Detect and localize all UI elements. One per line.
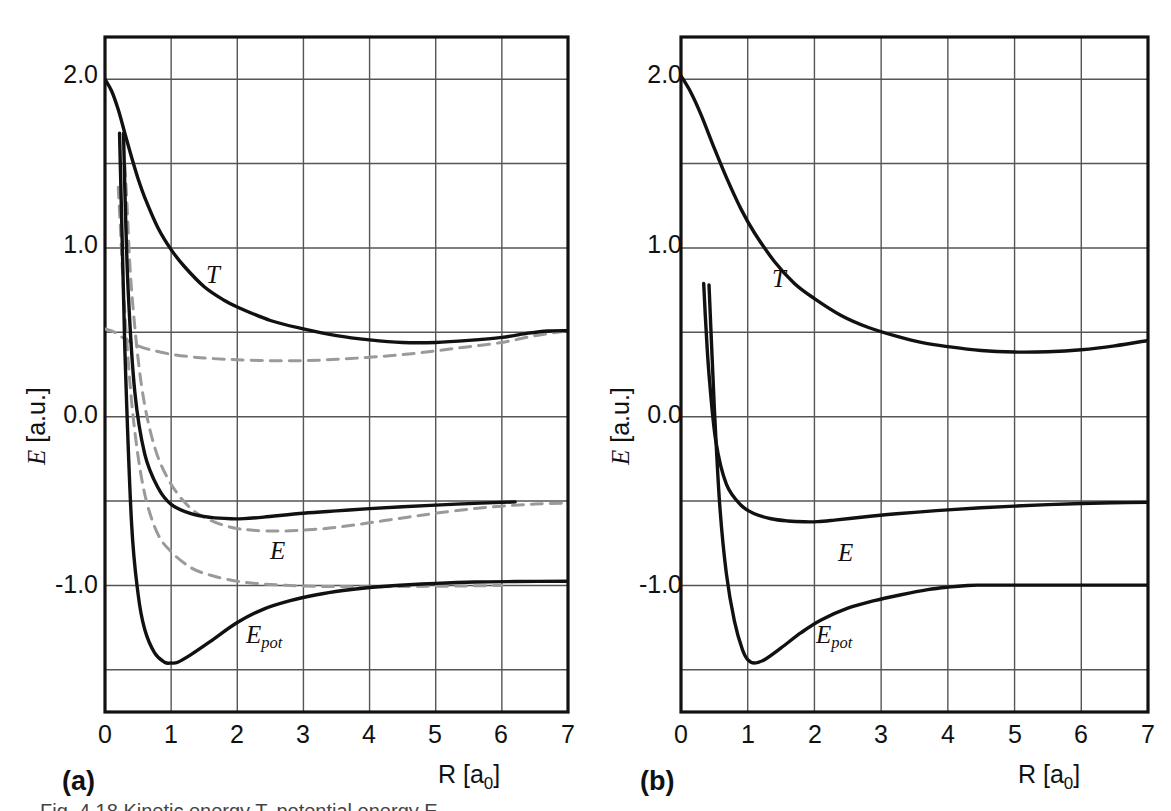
ytick-label-b-2: 2.0 [612,62,682,87]
xtick-label-b-3: 3 [864,722,898,747]
curve-T [105,79,568,343]
curve-label-b-Epot-sub: pot [831,633,852,652]
x-axis-title-b-tail: ] [1073,760,1080,788]
curve-label-a-E-text: E [270,537,285,564]
xtick-label-b-5: 5 [998,722,1032,747]
xtick-label-b-7: 7 [1131,722,1165,747]
xtick-label-a-1: 1 [154,722,188,747]
panel-a: 2.0 1.0 0.0 -1.0 0 1 2 3 4 5 6 7 E [a.u.… [0,0,600,811]
curve-E_pot [709,285,1148,663]
y-axis-title-a-symbol: E [23,450,50,465]
y-axis-title-b-symbol: E [607,450,634,465]
curve-T-dashed [105,329,568,361]
curve-label-b-Epot: Epot [816,622,852,647]
curve-T [681,76,1148,352]
xtick-label-a-2: 2 [220,722,254,747]
curve-label-b-T: T [772,266,786,291]
figure-caption-partial: Fig. 4.18 Kinetic energy T, potential en… [40,800,740,811]
xtick-label-b-2: 2 [798,722,832,747]
ytick-label-a-2: 2.0 [28,62,98,87]
xtick-label-a-0: 0 [88,722,122,747]
xtick-label-a-3: 3 [286,722,320,747]
x-axis-title-a: R [a0] [438,762,500,792]
xtick-label-a-4: 4 [352,722,386,747]
curve-E [124,133,516,519]
ytick-label-b-1: 1.0 [612,232,682,257]
xtick-label-b-6: 6 [1064,722,1098,747]
xtick-label-b-1: 1 [731,722,765,747]
panel-b: 2.0 1.0 0.0 -1.0 0 1 2 3 4 5 6 7 E [a.u.… [580,0,1171,811]
curve-label-b-E-text: E [838,539,853,566]
curve-label-a-T: T [206,262,220,287]
panel-letter-a: (a) [62,768,95,795]
curve-E_pot [120,133,568,663]
curve-label-a-E: E [270,538,285,563]
x-axis-title-a-tail: ] [493,760,500,788]
plot-area-a [0,0,600,760]
xtick-label-b-4: 4 [931,722,965,747]
figure-root: 2.0 1.0 0.0 -1.0 0 1 2 3 4 5 6 7 E [a.u.… [0,0,1171,811]
curve-label-b-E: E [838,540,853,565]
y-axis-title-a: E [a.u.] [24,387,49,465]
ytick-label-a-m1: -1.0 [20,572,98,597]
curve-label-b-T-text: T [772,265,786,292]
ytick-label-b-m1: -1.0 [604,572,682,597]
y-axis-title-b: E [a.u.] [608,387,633,465]
curve-label-a-Epot-text: E [246,621,261,648]
xtick-label-a-5: 5 [418,722,452,747]
curve-Epot-dashed [118,187,502,587]
ytick-label-a-1: 1.0 [28,232,98,257]
curve-label-b-Epot-text: E [816,621,831,648]
x-axis-title-a-sub: 0 [484,774,493,793]
curve-label-a-Epot-sub: pot [261,633,282,652]
panel-letter-b: (b) [640,768,674,795]
curve-label-a-T-text: T [206,261,220,288]
y-axis-title-b-units: [a.u.] [606,387,634,450]
x-axis-title-a-main: R [a [438,760,484,788]
y-axis-title-a-units: [a.u.] [22,387,50,450]
xtick-label-a-6: 6 [484,722,518,747]
plot-area-b [580,0,1171,760]
xtick-label-b-0: 0 [664,722,698,747]
x-axis-title-b-sub: 0 [1064,774,1073,793]
x-axis-title-b-main: R [a [1018,760,1064,788]
x-axis-title-b: R [a0] [1018,762,1080,792]
curve-label-a-Epot: Epot [246,622,282,647]
